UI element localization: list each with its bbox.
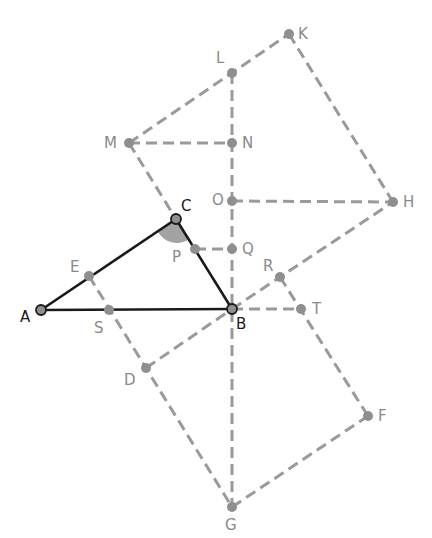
construction-lines (89, 34, 393, 507)
segment-o-h (232, 201, 393, 202)
label-h: H (403, 193, 414, 211)
label-n: N (242, 134, 253, 152)
label-d: D (124, 371, 136, 389)
segment-k-h (289, 34, 393, 202)
label-s: S (94, 319, 104, 337)
label-q: Q (242, 240, 254, 258)
point-s (104, 305, 114, 315)
label-b: B (236, 315, 246, 333)
point-o (227, 196, 237, 206)
side-a-b (41, 309, 232, 310)
geometry-diagram: K L M N O H P Q R E S T D F G A B C (0, 0, 432, 538)
segment-m-c (129, 143, 176, 219)
point-f (363, 411, 373, 421)
label-o: O (212, 191, 224, 209)
point-k (284, 29, 294, 39)
side-a-c (41, 219, 176, 310)
point-l (227, 68, 237, 78)
label-t: T (311, 300, 322, 318)
label-f: F (378, 407, 387, 425)
segment-b-h (232, 202, 393, 309)
label-m: M (104, 134, 117, 152)
point-p (190, 244, 200, 254)
label-l: L (216, 49, 225, 67)
segment-g-f (232, 416, 368, 507)
point-m (124, 138, 134, 148)
point-h (388, 197, 398, 207)
point-a (36, 305, 46, 315)
point-r (275, 272, 285, 282)
point-c (171, 214, 181, 224)
point-t (296, 304, 306, 314)
labels: K L M N O H P Q R E S T D F G A B C (20, 25, 414, 534)
label-r: R (263, 257, 273, 275)
label-g: G (225, 516, 237, 534)
segment-r-f (280, 277, 368, 416)
points (36, 29, 398, 512)
label-p: P (172, 248, 181, 266)
point-e (84, 271, 94, 281)
point-g (227, 502, 237, 512)
label-e: E (70, 258, 79, 276)
point-b (227, 304, 237, 314)
point-n (227, 138, 237, 148)
segment-m-k (129, 34, 289, 143)
label-c: C (181, 197, 191, 215)
segment-d-b (146, 309, 232, 368)
point-d (141, 363, 151, 373)
label-k: K (298, 25, 309, 43)
label-a: A (20, 308, 31, 326)
point-q (227, 244, 237, 254)
side-c-b (176, 219, 232, 309)
